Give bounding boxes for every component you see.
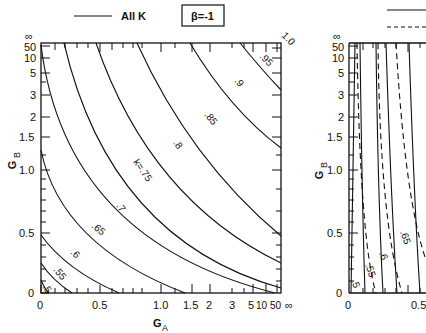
svg-text:.6: .6	[69, 247, 83, 261]
svg-text:0.5: 0.5	[327, 227, 342, 239]
legend-label-all-k: All K	[121, 10, 146, 22]
svg-text:1.0: 1.0	[19, 164, 34, 176]
left-chart: All K β=-1	[6, 5, 298, 333]
svg-text:5: 5	[248, 299, 254, 311]
right-dashed-contours	[357, 43, 426, 293]
svg-text:1.5: 1.5	[183, 299, 198, 311]
svg-text:3: 3	[30, 89, 36, 101]
contour-labels: .5 .55 .6 .65 .7 k=.75 .8 .85 .9 .95 1.0	[40, 30, 297, 296]
svg-text:.9: .9	[232, 75, 246, 89]
x-tick-labels: 0 0.5 1.0 1.5 2 3 5 10 50 ∞	[37, 299, 293, 311]
svg-text:50: 50	[270, 300, 282, 311]
svg-text:0: 0	[345, 299, 351, 311]
svg-text:2: 2	[338, 111, 344, 123]
svg-text:2: 2	[206, 299, 212, 311]
svg-text:.55: .55	[363, 262, 378, 279]
right-x-tick-labels: 0 0.5	[345, 299, 426, 311]
svg-text:1.5: 1.5	[19, 131, 34, 143]
right-x-ticks	[363, 43, 420, 293]
svg-text:5: 5	[30, 67, 36, 79]
svg-text:1.5: 1.5	[327, 131, 342, 143]
x-axis-label: G A	[153, 317, 168, 333]
svg-text:B: B	[319, 162, 329, 168]
svg-text:0: 0	[37, 299, 43, 311]
svg-text:0.5: 0.5	[92, 299, 107, 311]
svg-text:10: 10	[332, 52, 344, 64]
svg-text:0: 0	[336, 287, 342, 299]
y-tick-labels: 0 0.5 1.0 1.5 2 3 5 10 50 ∞	[19, 30, 36, 299]
svg-text:2: 2	[30, 111, 36, 123]
svg-text:.8: .8	[171, 138, 185, 152]
svg-text:A: A	[162, 323, 168, 333]
svg-text:∞: ∞	[25, 30, 33, 42]
svg-text:.6: .6	[377, 250, 390, 262]
svg-text:1.0: 1.0	[153, 299, 168, 311]
x-ticks	[41, 284, 277, 293]
svg-text:3: 3	[229, 299, 235, 311]
svg-text:B: B	[12, 152, 22, 158]
svg-text:1.0: 1.0	[280, 30, 298, 48]
contour-0.8	[96, 43, 281, 263]
svg-text:5: 5	[338, 67, 344, 79]
svg-text:0: 0	[28, 287, 34, 299]
svg-text:G: G	[153, 317, 162, 329]
svg-text:∞: ∞	[285, 299, 293, 311]
svg-text:0.5: 0.5	[411, 299, 426, 311]
svg-text:0.5: 0.5	[19, 227, 34, 239]
contour-0.95	[240, 43, 281, 90]
svg-text:10: 10	[24, 52, 36, 64]
svg-text:.65: .65	[398, 229, 413, 246]
svg-text:k=.75: k=.75	[131, 157, 154, 184]
beta-label: β=-1	[191, 10, 214, 22]
svg-text:.65: .65	[90, 220, 108, 238]
svg-text:3: 3	[338, 89, 344, 101]
figure: All K β=-1	[0, 0, 426, 333]
y-ticks	[41, 46, 50, 293]
right-chart: 0 0.5 1.0 1.5 2 3 5 10 50 ∞ G B 0 0.5	[313, 10, 426, 311]
svg-text:∞: ∞	[333, 30, 341, 42]
right-contour-labels: .5 .55 .6 .65	[349, 229, 413, 290]
svg-text:.85: .85	[202, 109, 220, 127]
svg-text:.95: .95	[258, 51, 276, 69]
svg-text:.7: .7	[114, 201, 128, 215]
svg-text:1.0: 1.0	[327, 164, 342, 176]
svg-text:G: G	[313, 171, 325, 180]
svg-text:50: 50	[332, 41, 344, 53]
svg-text:G: G	[6, 161, 18, 170]
svg-text:10: 10	[256, 300, 268, 311]
right-y-tick-labels: 0 0.5 1.0 1.5 2 3 5 10 50 ∞	[327, 30, 344, 299]
contour-0.75	[64, 43, 281, 288]
y-ticks-right	[272, 48, 281, 281]
svg-text:50: 50	[24, 41, 36, 53]
contour-0.6	[41, 235, 119, 293]
